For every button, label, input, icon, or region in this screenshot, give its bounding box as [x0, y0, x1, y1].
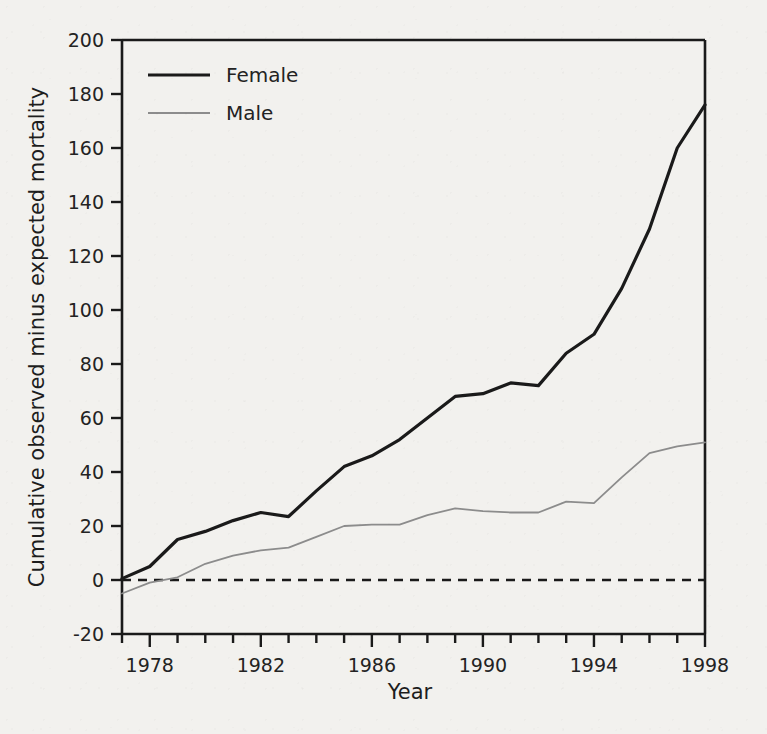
y-tick-label: -20 — [73, 623, 104, 645]
y-tick-label: 200 — [68, 29, 104, 51]
x-tick-label: 1990 — [459, 654, 507, 676]
x-tick-label: 1982 — [237, 654, 285, 676]
chart-legend: FemaleMale — [148, 63, 298, 125]
legend-label-male: Male — [226, 101, 273, 125]
line-chart: -20020406080100120140160180200 197819821… — [0, 0, 767, 734]
x-tick-label: 1978 — [126, 654, 174, 676]
axes-frame — [122, 40, 705, 634]
x-tick-label: 1994 — [570, 654, 618, 676]
y-tick-label: 0 — [92, 569, 104, 591]
y-tick-label: 120 — [68, 245, 104, 267]
y-tick-label: 60 — [80, 407, 104, 429]
y-tick-label: 160 — [68, 137, 104, 159]
y-tick-label: 180 — [68, 83, 104, 105]
chart-figure: -20020406080100120140160180200 197819821… — [0, 0, 767, 734]
series-line-female — [122, 105, 705, 579]
data-series-group — [122, 105, 705, 594]
x-axis-title: Year — [387, 680, 433, 704]
y-tick-label: 100 — [68, 299, 104, 321]
x-tick-label: 1998 — [681, 654, 729, 676]
x-tick-label: 1986 — [348, 654, 396, 676]
series-line-male — [122, 442, 705, 593]
y-tick-label: 20 — [80, 515, 104, 537]
y-tick-label: 140 — [68, 191, 104, 213]
y-tick-label: 40 — [80, 461, 104, 483]
y-axis-title: Cumulative observed minus expected morta… — [25, 87, 49, 587]
x-axis: 197819821986199019941998 — [122, 634, 729, 676]
y-axis: -20020406080100120140160180200 — [68, 29, 122, 645]
legend-label-female: Female — [226, 63, 298, 87]
y-tick-label: 80 — [80, 353, 104, 375]
